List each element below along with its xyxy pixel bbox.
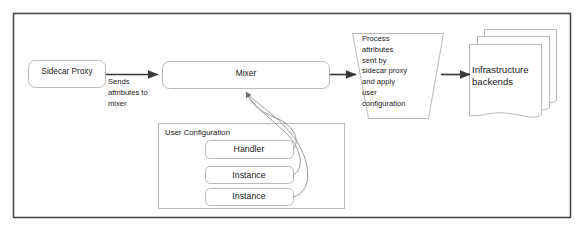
diagram-canvas: Sidecar Proxy Mixer Sends attributes to … — [0, 0, 584, 232]
mixer-box — [163, 62, 330, 89]
diagram-vector-layer — [0, 0, 584, 232]
instance-2-box — [206, 189, 294, 206]
instance-1-box — [206, 167, 294, 184]
process-trapezoid — [353, 34, 444, 119]
handler-box — [206, 141, 294, 159]
backends-document-front — [470, 45, 542, 118]
sidecar-proxy-box — [29, 61, 106, 88]
